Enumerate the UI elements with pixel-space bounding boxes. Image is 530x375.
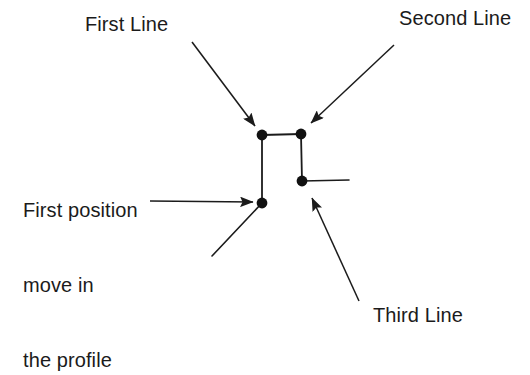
label-first-position-line-2: move in — [23, 273, 138, 298]
arrow-first-line — [192, 42, 255, 126]
leader-arrows — [150, 42, 394, 301]
profile-nodes — [257, 129, 308, 209]
node-top-left — [257, 130, 268, 141]
profile-segments — [212, 134, 349, 256]
label-first-position-move-in-the-profile: First position move in the profile — [23, 148, 138, 375]
arrow-third-line — [312, 198, 359, 301]
node-lower-left — [257, 198, 268, 209]
label-third-line: Third Line — [373, 303, 463, 328]
arrow-first-position — [150, 201, 253, 202]
segment-top-horizontal — [262, 134, 301, 135]
segment-lower-left-tail — [212, 203, 262, 256]
segment-right-stub — [302, 180, 349, 181]
label-first-position-line-1: First position — [23, 198, 138, 223]
label-first-line: First Line — [85, 12, 168, 37]
segment-right-vertical — [301, 134, 302, 181]
label-second-line: Second Line — [399, 6, 511, 31]
label-first-position-line-3: the profile — [23, 348, 138, 373]
node-top-right — [296, 129, 307, 140]
node-mid-right — [297, 176, 308, 187]
arrow-second-line — [311, 45, 394, 123]
